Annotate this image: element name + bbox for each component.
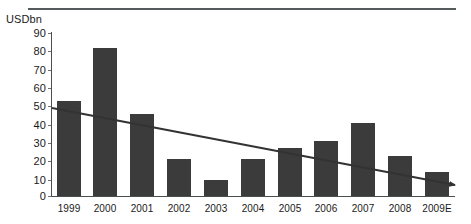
- y-tick-label-0: 0: [26, 191, 46, 202]
- y-tick-label-50: 50: [26, 101, 46, 112]
- bar-2005: [278, 148, 302, 196]
- y-tick-mark-40: [48, 125, 51, 126]
- plot-area: 90 80 70 60 50 40 30 20 10 0: [0, 0, 471, 224]
- y-tick-label-40: 40: [26, 120, 46, 131]
- bar-2000: [93, 48, 117, 196]
- bar-2004: [241, 159, 265, 196]
- y-tick-label-30: 30: [26, 138, 46, 149]
- y-tick-mark-10: [48, 180, 51, 181]
- y-tick-mark-30: [48, 143, 51, 144]
- bar-2008: [388, 156, 412, 196]
- chart-figure: USDbn 90 80 70 60 50 40 30 20 10 0: [0, 0, 471, 224]
- x-axis-line: [51, 196, 455, 197]
- y-tick-mark-50: [48, 106, 51, 107]
- y-axis-line: [51, 32, 52, 197]
- bar-2001: [130, 114, 154, 196]
- bar-2006: [314, 141, 338, 196]
- y-tick-label-80: 80: [26, 46, 46, 57]
- y-tick-mark-60: [48, 88, 51, 89]
- x-tick-label-2009E: 2009E: [413, 203, 461, 214]
- y-tick-mark-70: [48, 70, 51, 71]
- y-tick-mark-20: [48, 161, 51, 162]
- y-tick-mark-90: [48, 33, 51, 34]
- y-tick-mark-80: [48, 51, 51, 52]
- y-tick-label-10: 10: [26, 175, 46, 186]
- bar-2002: [167, 159, 191, 196]
- bar-2003: [204, 180, 228, 196]
- y-tick-label-90: 90: [26, 28, 46, 39]
- y-tick-label-60: 60: [26, 83, 46, 94]
- y-tick-label-70: 70: [26, 65, 46, 76]
- y-tick-label-20: 20: [26, 156, 46, 167]
- y-tick-mark-0: [48, 196, 51, 197]
- bar-2009E: [425, 172, 449, 196]
- bar-1999: [57, 101, 81, 196]
- bar-2007: [351, 123, 375, 196]
